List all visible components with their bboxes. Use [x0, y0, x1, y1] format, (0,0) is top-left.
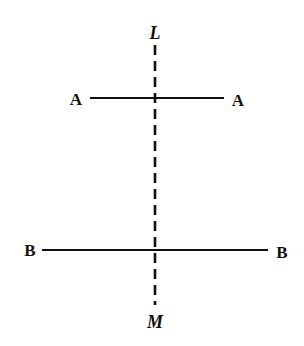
- label-l: L: [150, 24, 161, 42]
- label-b-left: B: [24, 242, 35, 259]
- symmetry-diagram: L M A A B B: [0, 0, 304, 346]
- label-a-left: A: [70, 91, 82, 108]
- label-b-right: B: [276, 244, 287, 261]
- label-a-right: A: [232, 92, 244, 109]
- diagram-canvas: [0, 0, 304, 346]
- label-m: M: [147, 313, 163, 331]
